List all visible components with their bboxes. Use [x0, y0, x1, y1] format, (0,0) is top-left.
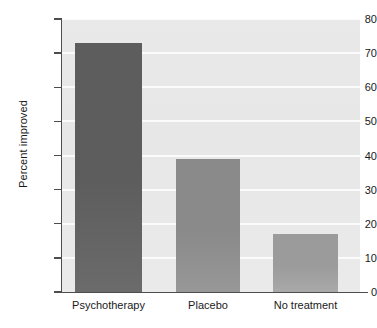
- x-axis-line: [61, 292, 368, 293]
- y-tick-label: 80: [329, 13, 377, 25]
- y-tick-label: 20: [329, 218, 377, 230]
- x-category-label: Placebo: [188, 299, 228, 311]
- x-category-label: Psychotherapy: [72, 299, 145, 311]
- y-tick-mark: [54, 291, 61, 292]
- y-tick-label: 60: [329, 81, 377, 93]
- y-tick-label: 0: [329, 286, 377, 298]
- y-tick-mark: [54, 121, 61, 122]
- bar: [75, 43, 142, 292]
- y-tick-mark: [54, 87, 61, 88]
- y-tick-mark: [54, 189, 61, 190]
- y-tick-label: 30: [329, 184, 377, 196]
- x-category-label: No treatment: [274, 299, 338, 311]
- y-tick-label: 70: [329, 47, 377, 59]
- y-tick-mark: [54, 155, 61, 156]
- bar-chart: Percent improved 01020304050607080 Psych…: [0, 0, 377, 328]
- y-tick-mark: [54, 52, 61, 53]
- y-tick-mark: [54, 223, 61, 224]
- y-tick-mark: [54, 18, 61, 19]
- y-axis-title: Percent improved: [17, 74, 29, 214]
- y-tick-label: 40: [329, 150, 377, 162]
- y-tick-mark: [54, 257, 61, 258]
- y-tick-label: 50: [329, 115, 377, 127]
- y-tick-label: 10: [329, 252, 377, 264]
- y-axis-line: [61, 18, 62, 293]
- bar: [176, 159, 240, 292]
- gridline: [62, 19, 360, 20]
- plot-area: [62, 19, 360, 292]
